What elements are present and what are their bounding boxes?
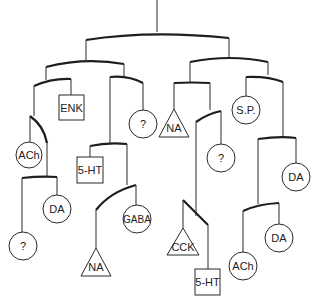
label-da-2: DA (288, 171, 304, 183)
label-q-1: ? (20, 240, 26, 252)
label-da-3: DA (271, 232, 287, 244)
bracket-rrrl (243, 203, 279, 211)
label-gaba: GABA (123, 214, 151, 225)
label-ach-2: ACh (232, 260, 253, 272)
label-da-1: DA (49, 203, 65, 215)
label-ach-1: ACh (18, 149, 39, 161)
label-sp: S.P. (236, 104, 255, 116)
bracket-left (46, 61, 124, 67)
bracket-ll (34, 79, 71, 86)
bracket-rrr (258, 137, 296, 139)
label-q-3: ? (218, 152, 224, 164)
bracket-rl (174, 83, 210, 84)
bracket-rlr (196, 111, 221, 122)
bracket-rr (246, 77, 283, 82)
label-na-2: NA (166, 122, 182, 134)
neuron-tree-diagram: ENK ACh ? 5-HT DA ? GABA NA NA ? S.P. DA… (0, 0, 317, 305)
label-enk: ENK (60, 102, 83, 114)
bracket-lrll (96, 185, 136, 210)
bracket-lrl (90, 143, 127, 146)
bracket-llll (22, 177, 57, 178)
bracket-right (190, 58, 268, 62)
label-na-1: NA (88, 261, 104, 273)
label-q-2: ? (140, 118, 146, 130)
label-cck: CCK (171, 241, 195, 253)
label-5ht-2: 5-HT (195, 276, 220, 288)
label-5ht-1: 5-HT (78, 164, 103, 176)
bracket-lll (30, 116, 47, 143)
bracket-lr (110, 77, 143, 83)
bracket-root (86, 34, 229, 40)
